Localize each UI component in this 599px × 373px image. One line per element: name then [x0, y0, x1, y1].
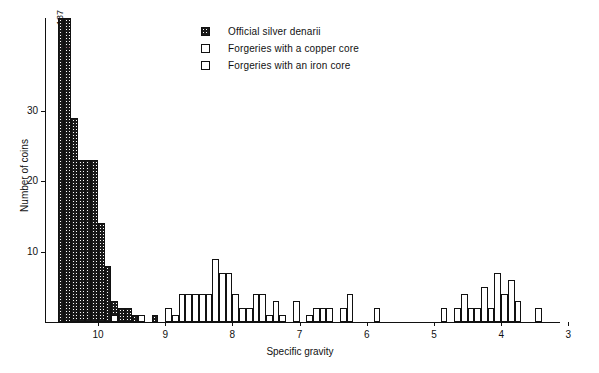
histogram-bar [199, 294, 206, 322]
histogram-bar [501, 294, 508, 322]
histogram-bar [58, 18, 65, 322]
legend-item-copper: Forgeries with a copper core [201, 41, 359, 56]
x-axis-tick-label: 8 [220, 329, 244, 340]
histogram-bar [125, 308, 132, 322]
y-axis-tick [41, 181, 46, 182]
x-axis-line [45, 322, 560, 323]
histogram-bar [253, 294, 260, 322]
legend-item-label: Forgeries with an iron core [228, 60, 350, 71]
x-axis-tick [98, 322, 99, 326]
y-axis-line [45, 18, 46, 323]
legend-item-silver: Official silver denarii [201, 24, 359, 39]
histogram-bar [326, 308, 333, 322]
histogram-bar [91, 160, 98, 322]
x-axis-tick [501, 322, 502, 326]
histogram-bar [488, 308, 495, 322]
histogram-bar [152, 315, 159, 322]
histogram-bar [461, 294, 468, 322]
histogram-bar [347, 294, 354, 322]
histogram-bar [172, 315, 179, 322]
plot-area: 109876543 102030 13775 Number of coins S… [0, 0, 599, 373]
histogram-bar [320, 308, 327, 322]
x-axis-tick-label: 3 [556, 329, 580, 340]
histogram-bar [494, 273, 501, 322]
histogram-bar [441, 308, 448, 322]
x-axis-tick-label: 10 [86, 329, 110, 340]
histogram-bar [206, 294, 213, 322]
chart-legend: Official silver denarii Forgeries with a… [201, 24, 359, 75]
histogram-bar [212, 259, 219, 322]
histogram-bar [192, 294, 199, 322]
histogram-bar [179, 294, 186, 322]
histogram-bar [279, 315, 286, 322]
open-square-icon [201, 44, 210, 53]
histogram-bar [239, 308, 246, 322]
histogram-bar [374, 308, 381, 322]
y-axis-tick-label: 30 [12, 106, 38, 116]
x-axis-tick-label: 6 [355, 329, 379, 340]
x-axis-tick-label: 5 [422, 329, 446, 340]
histogram-bar [306, 315, 313, 322]
histogram-figure: 109876543 102030 13775 Number of coins S… [0, 0, 599, 373]
histogram-bar [259, 294, 266, 322]
histogram-bar [132, 315, 139, 322]
histogram-bar [98, 223, 105, 322]
histogram-bar [340, 308, 347, 322]
histogram-bar [226, 273, 233, 322]
bar-value-label: 75 [63, 45, 72, 55]
x-axis-tick [434, 322, 435, 326]
y-axis-tick [41, 111, 46, 112]
legend-item-label: Official silver denarii [228, 26, 321, 37]
histogram-bar [138, 315, 145, 322]
histogram-bar [85, 160, 92, 322]
histogram-bar [165, 308, 172, 322]
stipple-square-icon [201, 27, 210, 36]
x-axis-tick-label: 9 [153, 329, 177, 340]
y-axis-tick-label: 10 [12, 247, 38, 257]
histogram-bar [219, 273, 226, 322]
y-axis-title: Number of coins [19, 121, 30, 231]
legend-item-label: Forgeries with a copper core [228, 43, 359, 54]
x-axis-tick [367, 322, 368, 326]
x-axis-tick-label: 4 [489, 329, 513, 340]
histogram-bar [64, 18, 71, 322]
histogram-bar [474, 308, 481, 322]
open-square-icon [201, 61, 210, 70]
histogram-bar [232, 294, 239, 322]
histogram-bar [454, 308, 461, 322]
x-axis-tick-label: 7 [288, 329, 312, 340]
histogram-bar [515, 301, 522, 322]
histogram-bar [293, 301, 300, 322]
legend-item-iron: Forgeries with an iron core [201, 58, 359, 73]
histogram-bar [78, 160, 85, 322]
histogram-bar [266, 315, 273, 322]
histogram-bar [246, 308, 253, 322]
histogram-bar [468, 308, 475, 322]
histogram-bar [118, 308, 125, 322]
histogram-bar [508, 280, 515, 322]
x-axis-tick [300, 322, 301, 326]
x-axis-tick [232, 322, 233, 326]
histogram-bar [535, 308, 542, 322]
x-axis-title: Specific gravity [220, 346, 380, 357]
histogram-bar [105, 266, 112, 322]
x-axis-tick [568, 322, 569, 326]
histogram-bar [111, 315, 118, 322]
x-axis-tick [165, 322, 166, 326]
histogram-bar [313, 308, 320, 322]
bar-value-label: 137 [56, 10, 65, 25]
histogram-bar [71, 118, 78, 322]
histogram-bar [273, 301, 280, 322]
histogram-bar [481, 287, 488, 322]
histogram-bar [185, 294, 192, 322]
y-axis-tick [41, 252, 46, 253]
